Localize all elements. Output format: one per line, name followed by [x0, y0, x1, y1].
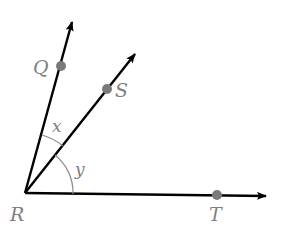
point-s	[102, 84, 112, 94]
point-q	[56, 61, 66, 71]
ray-rq	[25, 22, 72, 193]
angle-x-arc	[42, 135, 63, 146]
label-t: T	[209, 203, 223, 225]
angle-y-arc	[55, 155, 73, 194]
angle-diagram: Q S T R x y	[0, 0, 284, 236]
ray-rt	[25, 193, 266, 196]
label-angle-x: x	[52, 116, 62, 136]
point-t	[212, 190, 222, 200]
label-angle-y: y	[74, 159, 85, 179]
label-r: R	[9, 203, 24, 225]
label-q: Q	[33, 56, 49, 78]
label-s: S	[115, 79, 128, 101]
